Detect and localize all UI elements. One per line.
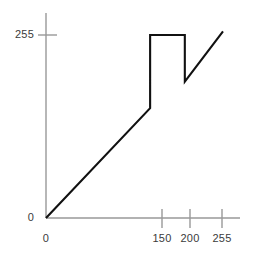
y-tick-label-0: 0 (4, 211, 34, 223)
x-tick-label-255: 255 (207, 232, 237, 244)
x-tick-label-200: 200 (175, 232, 205, 244)
x-tick-label-150: 150 (147, 232, 177, 244)
y-tick-label-255: 255 (4, 28, 34, 40)
transformation-curve (46, 31, 223, 218)
x-tick-label-0: 0 (36, 232, 56, 244)
intensity-transformation-chart: 255 0 0 150 200 255 (0, 0, 257, 257)
chart-canvas (0, 0, 257, 257)
